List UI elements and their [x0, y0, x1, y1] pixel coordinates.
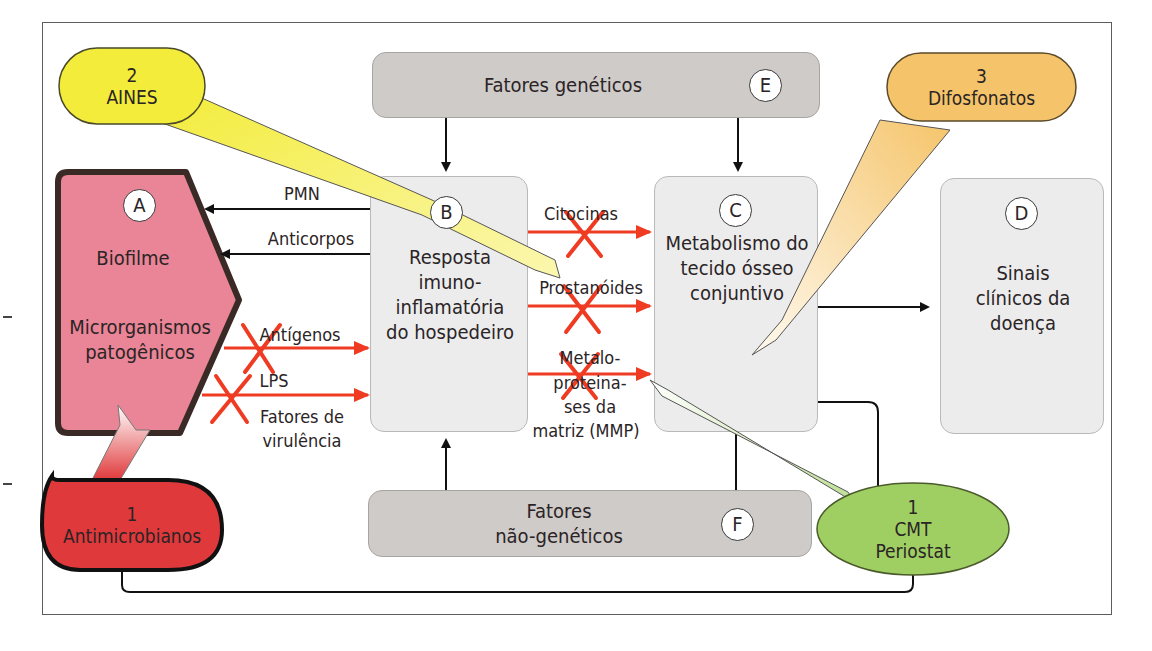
callout-antimicrobianos-name: Antimicrobianos [63, 525, 201, 547]
callout-difosfonatos-number: 3 [976, 65, 987, 87]
node-b-marker: B [430, 196, 463, 229]
lps-label: LPS [244, 370, 304, 392]
virulence-label-2: virulência [242, 430, 362, 452]
callout-antimicrobianos-number: 1 [127, 503, 138, 525]
callout-antimicrobianos: 1 Antimicrobianos [42, 480, 222, 570]
callout-difosfonatos: 3 Difosfonatos [887, 53, 1076, 121]
callout-cmt-name-1: CMT [894, 518, 931, 540]
virulence-label-1: Fatores de [242, 406, 362, 428]
callout-aines-number: 2 [127, 64, 138, 86]
citocinas-label: Citocinas [530, 203, 632, 225]
mmp-label-1: Metalo- [530, 347, 650, 369]
antigenos-label: Antígenos [244, 324, 356, 346]
callout-cmt: 1 CMT Periostat [817, 483, 1009, 575]
mmp-label-4: matriz (MMP) [516, 420, 656, 442]
node-a-title: Biofilme [78, 246, 188, 270]
node-a-subtitle-line2: patogênicos [60, 340, 220, 364]
node-a-marker: A [123, 189, 156, 222]
mmp-label-2: proteina- [530, 372, 650, 394]
pmn-label: PMN [272, 183, 332, 205]
callout-aines-name: AINES [106, 86, 157, 108]
callout-aines: 2 AINES [59, 48, 205, 124]
anticorpos-label: Anticorpos [256, 228, 366, 250]
node-a-subtitle-line1: Microrganismos [60, 315, 220, 339]
callout-difosfonatos-name: Difosfonatos [928, 87, 1035, 109]
callout-difosfonatos-pointer [752, 120, 950, 355]
callout-cmt-number: 1 [908, 496, 919, 518]
prostanoides-label: Prostanóides [528, 277, 654, 299]
mmp-label-3: ses da [530, 396, 650, 418]
callout-cmt-name-2: Periostat [875, 540, 950, 562]
